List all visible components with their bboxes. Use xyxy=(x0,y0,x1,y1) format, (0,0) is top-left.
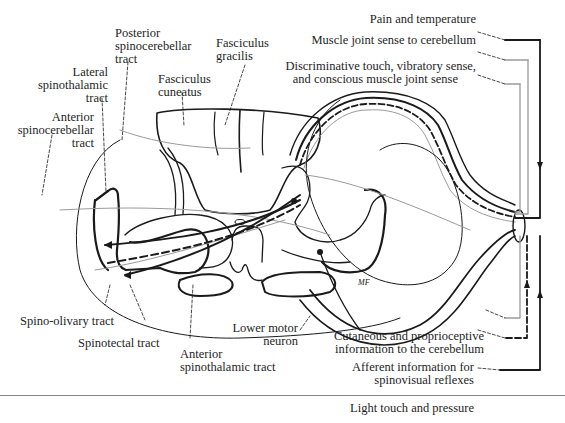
label-spinotectal: Spinotectal tract xyxy=(78,337,160,350)
left-anterior-horn xyxy=(179,274,233,296)
label-afferent-spinovisual: Afferent information for spinovisual ref… xyxy=(300,361,474,387)
right-anterior-horn xyxy=(262,272,335,297)
label-cutaneous-proprioceptive: Cutaneous and proprioceptive information… xyxy=(300,330,484,356)
label-discriminative-touch: Discriminative touch, vibratory sense, a… xyxy=(240,60,476,86)
right-gray-horn xyxy=(282,166,385,242)
artist-signature: MF xyxy=(357,278,370,287)
divider xyxy=(0,395,565,396)
dorsal-root-ganglion xyxy=(513,210,525,242)
label-pain-temperature: Pain and temperature xyxy=(300,13,476,26)
label-muscle-joint-cerebellum: Muscle joint sense to cerebellum xyxy=(250,34,476,47)
ventral-root xyxy=(310,230,515,334)
label-anterior-spinothalamic: Anterior spinothalamic tract xyxy=(180,348,275,374)
label-anterior-spinocerebellar: Anterior spinocerebellar tract xyxy=(0,111,94,150)
label-posterior-spinocerebellar: Posterior spinocerebellar tract xyxy=(115,27,191,66)
label-spino-olivary: Spino-olivary tract xyxy=(20,315,114,328)
label-fasciculus-cuneatus: Fasciculus cuneatus xyxy=(158,73,211,99)
cord-outline xyxy=(76,140,400,338)
label-lateral-spinothalamic: Lateral spinothalamic tract xyxy=(30,66,108,105)
label-lower-motor-neuron: Lower motor neuron xyxy=(220,322,298,348)
label-light-touch-pressure: Light touch and pressure xyxy=(300,402,474,415)
